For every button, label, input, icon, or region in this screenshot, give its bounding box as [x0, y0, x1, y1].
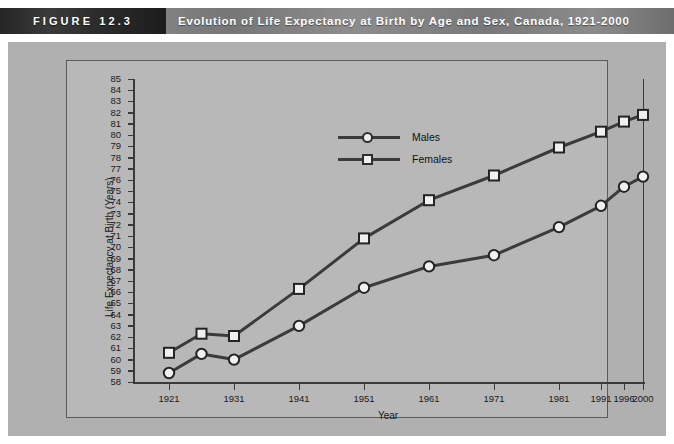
y-tick-label: 70 — [99, 242, 121, 252]
data-point-females — [489, 171, 499, 181]
data-point-females — [164, 348, 174, 358]
figure-title: Evolution of Life Expectancy at Birth by… — [178, 8, 630, 34]
y-tick-label: 76 — [99, 175, 121, 185]
y-tick-label: 79 — [99, 141, 121, 151]
legend-marker-circle-icon — [362, 132, 373, 143]
data-point-females — [638, 110, 648, 120]
x-tick-label: 2000 — [623, 393, 663, 404]
figure-title-label: Evolution of Life Expectancy at Birth by… — [178, 15, 630, 27]
y-tick-label: 80 — [99, 130, 121, 140]
legend-label-males: Males — [412, 131, 440, 143]
y-tick-label: 63 — [99, 321, 121, 331]
legend-label-females: Females — [412, 153, 452, 165]
figure-page: FIGURE 12.3 Evolution of Life Expectancy… — [0, 0, 674, 444]
figure-plate: Life Expectancy at Birth (Years) Year 85… — [8, 42, 666, 436]
y-tick-label: 65 — [99, 298, 121, 308]
data-point-males — [554, 222, 564, 232]
data-point-males — [196, 349, 206, 359]
data-point-males — [229, 354, 239, 364]
y-tick-label: 61 — [99, 343, 121, 353]
y-tick-label: 84 — [99, 85, 121, 95]
legend-line-females — [338, 158, 400, 161]
data-point-females — [619, 117, 629, 127]
y-tick-label: 58 — [99, 377, 121, 387]
data-point-females — [294, 284, 304, 294]
y-tick-label: 62 — [99, 332, 121, 342]
series-line-males — [169, 177, 643, 373]
data-point-males — [294, 321, 304, 331]
y-tick-label: 68 — [99, 265, 121, 275]
data-point-females — [229, 331, 239, 341]
y-tick-label: 85 — [99, 74, 121, 84]
y-tick-label: 83 — [99, 96, 121, 106]
figure-number-tag: FIGURE 12.3 — [0, 8, 166, 34]
y-tick-label: 78 — [99, 153, 121, 163]
y-tick-label: 77 — [99, 164, 121, 174]
data-point-males — [619, 182, 629, 192]
data-point-males — [596, 201, 606, 211]
legend-item-males: Males — [338, 126, 452, 148]
y-tick-label: 66 — [99, 287, 121, 297]
y-tick-label: 60 — [99, 355, 121, 365]
data-point-males — [638, 171, 648, 181]
y-tick-label: 81 — [99, 119, 121, 129]
legend-item-females: Females — [338, 148, 452, 170]
y-tick-label: 74 — [99, 197, 121, 207]
data-point-females — [424, 195, 434, 205]
data-point-females — [596, 127, 606, 137]
data-point-males — [164, 368, 174, 378]
legend-line-males — [338, 136, 400, 139]
figure-number-label: FIGURE 12.3 — [33, 15, 133, 27]
y-tick-label: 82 — [99, 108, 121, 118]
y-tick-label: 75 — [99, 186, 121, 196]
x-tick — [624, 384, 626, 390]
figure-header-banner: FIGURE 12.3 Evolution of Life Expectancy… — [0, 8, 674, 34]
data-point-males — [424, 261, 434, 271]
legend-marker-square-icon — [362, 154, 373, 165]
data-point-females — [359, 233, 369, 243]
chart-legend: Males Females — [338, 126, 452, 170]
y-tick-label: 71 — [99, 231, 121, 241]
y-tick-label: 67 — [99, 276, 121, 286]
y-tick-label: 69 — [99, 254, 121, 264]
y-tick-label: 64 — [99, 310, 121, 320]
data-point-females — [554, 143, 564, 153]
data-point-males — [489, 250, 499, 260]
y-tick-label: 72 — [99, 220, 121, 230]
right-axis-line — [643, 79, 644, 382]
data-point-females — [197, 329, 207, 339]
data-point-males — [359, 283, 369, 293]
y-tick-label: 59 — [99, 366, 121, 376]
y-tick-label: 73 — [99, 209, 121, 219]
x-tick — [643, 384, 645, 390]
